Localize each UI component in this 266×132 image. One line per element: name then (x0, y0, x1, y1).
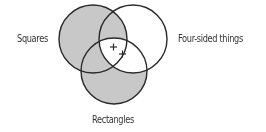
label-squares: Squares (17, 33, 48, 45)
venn-diagram (0, 0, 266, 132)
label-rectangles: Rectangles (92, 114, 134, 126)
label-four-sided-things: Four-sided things (178, 33, 243, 45)
